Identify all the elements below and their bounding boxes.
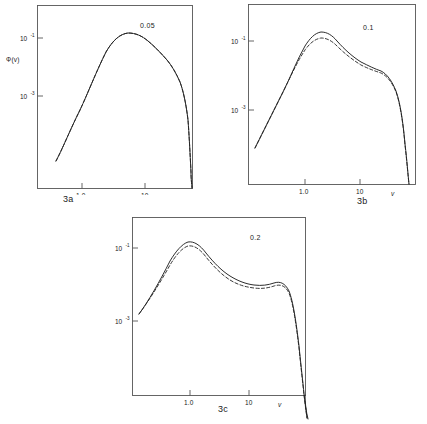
panel-3b-ytick-label-2-exponent: -3 [242,105,247,110]
panel-3a-param-label: 0.05 [140,22,155,29]
panel-3a-ytick-label-1-exponent: -1 [31,33,36,38]
panel-3a-y-axis-label: Φ(v) [6,56,20,63]
figure-container: 10 -1 10 -3 1.0 10 v 0.05 Φ(v) 3a [0,0,427,424]
panel-3b-ytick-label-1-mantissa: 10 [231,38,239,45]
panel-3a-xtick-label-1: 1.0 [76,192,86,195]
panel-3b-ytick-label-2-mantissa: 10 [231,107,239,114]
panel-3c-ytick-label-2-exponent: -3 [126,316,131,321]
panel-3c: 10 -1 10 -3 1.0 10 v 0.2 Φ(v) [112,213,327,424]
panel-3b-ytick-label-1-exponent: -1 [242,36,247,41]
panel-3c-plot: 10 -1 10 -3 1.0 10 v 0.2 [112,213,327,424]
panel-3b-param-label: 0.1 [363,24,374,31]
panel-3a-xtick-label-2: 10 [141,192,149,195]
panel-3b-curve-solid [255,32,409,184]
panel-3a-frame [38,6,193,189]
panel-3c-param-label: 0.2 [250,234,261,241]
panel-3b-xtick-label-1: 1.0 [299,188,309,195]
panel-3c-ytick-label-1-exponent: -1 [126,243,131,248]
panel-3a: 10 -1 10 -3 1.0 10 v 0.05 Φ(v) [0,0,215,195]
panel-3c-ytick-label-1-mantissa: 10 [115,245,123,252]
panel-3b-curve-dashed [255,38,409,184]
panel-3c-xtick-label-1: 1.0 [184,399,194,406]
panel-3c-frame [133,218,306,396]
panel-3b: 10 -1 10 -3 1.0 10 v 0.1 Φ(v) [215,0,427,200]
panel-3b-caption: 3b [357,196,367,206]
panel-3c-x-axis-label: v [278,401,282,408]
panel-3b-frame [249,5,416,185]
panel-3c-caption: 3c [218,404,228,414]
panel-3a-x-axis-label: v [176,193,180,195]
panel-3c-xtick-label-2: 10 [245,399,253,406]
panel-3a-plot: 10 -1 10 -3 1.0 10 v 0.05 [0,0,215,195]
panel-3b-xtick-label-2: 10 [356,188,364,195]
panel-3c-curve-solid [139,242,307,418]
panel-3a-ytick-label-2-exponent: -3 [31,91,36,96]
panel-3a-ytick-label-2-mantissa: 10 [20,93,28,100]
panel-3a-curve-solid [56,33,192,188]
panel-3b-x-axis-label: v [391,190,395,197]
panel-3a-ytick-label-1-mantissa: 10 [20,35,28,42]
panel-3a-caption: 3a [63,194,73,204]
panel-3a-curve-dashed [56,33,192,188]
panel-3b-plot: 10 -1 10 -3 1.0 10 v 0.1 [215,0,427,200]
panel-3c-ytick-label-2-mantissa: 10 [115,318,123,325]
